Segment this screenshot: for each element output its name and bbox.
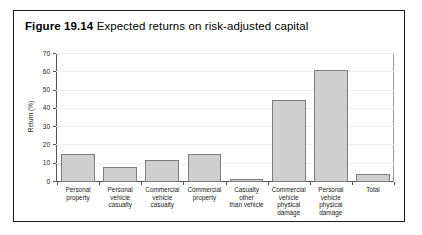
x-category-label: Casualtyotherthan vehicle bbox=[226, 186, 268, 209]
y-tick-mark bbox=[53, 144, 56, 145]
x-tick-mark bbox=[352, 182, 353, 185]
bar bbox=[230, 179, 264, 182]
bar-chart: Return (%) 010203040506070 Personalprope… bbox=[14, 41, 406, 221]
bar bbox=[103, 167, 137, 182]
x-tick-mark bbox=[226, 182, 227, 185]
y-tick-label: 0 bbox=[16, 178, 50, 185]
bar bbox=[356, 174, 390, 182]
x-label-line: property bbox=[183, 194, 225, 202]
x-label-line: Commercial bbox=[183, 186, 225, 194]
figure-caption: Figure 19.14 Expected returns on risk-ad… bbox=[25, 19, 308, 33]
x-label-line: vehicle bbox=[99, 194, 141, 202]
x-label-line: other bbox=[226, 194, 268, 202]
y-tick-mark bbox=[53, 108, 56, 109]
x-label-line: Personal vehicle bbox=[310, 186, 352, 201]
figure-caption-text: Expected returns on risk-adjusted capita… bbox=[93, 20, 308, 32]
y-tick-mark bbox=[53, 71, 56, 72]
y-tick-label: 30 bbox=[16, 123, 50, 130]
x-label-line: Total bbox=[352, 186, 394, 194]
figure-number: Figure 19.14 bbox=[25, 20, 93, 32]
y-tick-label: 60 bbox=[16, 68, 50, 75]
x-label-line: Personal bbox=[57, 186, 99, 194]
bar bbox=[272, 100, 306, 182]
x-tick-mark bbox=[268, 182, 269, 185]
y-tick-label: 50 bbox=[16, 86, 50, 93]
y-tick-label: 40 bbox=[16, 104, 50, 111]
x-label-line: physical bbox=[310, 201, 352, 209]
x-category-label: Commercialproperty bbox=[183, 186, 225, 201]
x-label-line: damage bbox=[310, 209, 352, 217]
x-label-line: vehicle physical bbox=[268, 194, 310, 209]
x-label-line: Casualty bbox=[226, 186, 268, 194]
bar bbox=[145, 160, 179, 182]
x-label-line: casualty bbox=[141, 201, 183, 209]
bar bbox=[188, 154, 222, 182]
y-tick-mark bbox=[53, 181, 56, 182]
y-tick-mark bbox=[53, 90, 56, 91]
x-label-line: than vehicle bbox=[226, 201, 268, 209]
y-tick-label: 20 bbox=[16, 141, 50, 148]
y-tick-mark bbox=[53, 126, 56, 127]
bars-layer bbox=[57, 53, 394, 182]
x-tick-mark bbox=[99, 182, 100, 185]
x-label-line: property bbox=[57, 194, 99, 202]
x-label-line: damage bbox=[268, 209, 310, 217]
x-category-label: Commercialvehiclecasualty bbox=[141, 186, 183, 209]
x-label-line: Personal bbox=[99, 186, 141, 194]
y-tick-label: 70 bbox=[16, 50, 50, 57]
x-label-line: vehicle bbox=[141, 194, 183, 202]
x-tick-mark bbox=[141, 182, 142, 185]
bar bbox=[61, 154, 95, 182]
x-category-label: Commercialvehicle physicaldamage bbox=[268, 186, 310, 216]
x-category-label: Personalvehiclecasualty bbox=[99, 186, 141, 209]
x-category-label: Total bbox=[352, 186, 394, 194]
x-label-line: Commercial bbox=[268, 186, 310, 194]
x-tick-mark bbox=[57, 182, 58, 185]
x-label-line: Commercial bbox=[141, 186, 183, 194]
x-label-line: casualty bbox=[99, 201, 141, 209]
figure-frame: Figure 19.14 Expected returns on risk-ad… bbox=[13, 10, 405, 222]
bar bbox=[314, 70, 348, 182]
y-tick-label: 10 bbox=[16, 159, 50, 166]
x-tick-mark bbox=[310, 182, 311, 185]
x-category-label: Personal vehiclephysicaldamage bbox=[310, 186, 352, 216]
x-tick-mark bbox=[183, 182, 184, 185]
y-tick-mark bbox=[53, 53, 56, 54]
x-category-label: Personalproperty bbox=[57, 186, 99, 201]
y-tick-mark bbox=[53, 163, 56, 164]
x-tick-mark bbox=[394, 182, 395, 185]
